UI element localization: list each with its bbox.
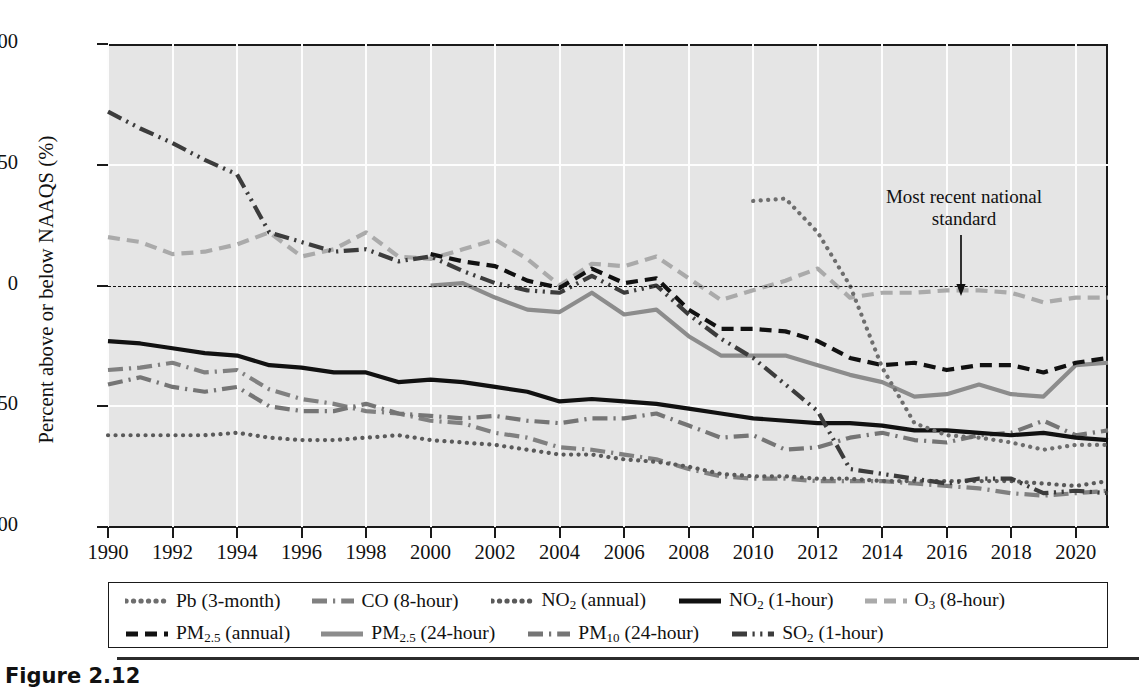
x-tick-label: 2008 [654, 541, 724, 564]
x-tick-label: 2002 [460, 541, 530, 564]
y-axis-title: Percent above or below NAAQS (%) [35, 40, 58, 540]
legend-label: O3 (8-hour) [915, 589, 1005, 613]
legend-item[interactable]: NO2 (annual) [491, 589, 647, 613]
legend-label: PM2.5 (24-hour) [371, 622, 495, 646]
legend-item[interactable]: Pb (3-month) [125, 590, 281, 612]
legend-row-1: Pb (3-month)CO (8-hour)NO2 (annual)NO2 (… [109, 584, 1109, 617]
annotation-arrow-icon [953, 235, 969, 297]
chart-figure: Percent above or below NAAQS (%) 100500−… [0, 0, 1139, 652]
x-axis-tick [301, 527, 303, 538]
legend-swatch-icon [527, 627, 571, 641]
y-tick-label: 0 [8, 272, 18, 295]
x-axis-tick [559, 527, 561, 538]
x-tick-label: 2004 [525, 541, 595, 564]
y-tick-label: −100 [0, 513, 18, 536]
x-axis-tick [688, 527, 690, 538]
caption-divider [117, 657, 1139, 660]
y-tick-label: −50 [0, 392, 18, 415]
legend-item[interactable]: PM2.5 (24-hour) [320, 622, 495, 646]
legend-label: NO2 (1-hour) [729, 589, 834, 613]
x-axis-tick [236, 527, 238, 538]
x-tick-label: 2000 [396, 541, 466, 564]
legend-swatch-icon [678, 594, 722, 608]
x-axis-tick [107, 527, 109, 538]
annotation-line-1: Most recent national [849, 186, 1079, 208]
legend-item[interactable]: PM2.5 (annual) [125, 622, 290, 646]
x-axis-tick [365, 527, 367, 538]
x-axis-tick [946, 527, 948, 538]
x-axis-tick [623, 527, 625, 538]
legend-swatch-icon [311, 594, 355, 608]
y-axis-tick [97, 285, 108, 287]
y-axis-tick [97, 164, 108, 166]
series-line [108, 377, 1108, 449]
x-tick-label: 2018 [976, 541, 1046, 564]
series-line [431, 283, 1108, 397]
x-tick-label: 1996 [267, 541, 337, 564]
x-tick-label: 2010 [718, 541, 788, 564]
x-tick-label: 2016 [912, 541, 982, 564]
y-axis-tick [97, 43, 108, 45]
legend-label: PM10 (24-hour) [578, 622, 699, 646]
legend-label: SO2 (1-hour) [782, 622, 883, 646]
y-axis-tick [97, 405, 108, 407]
x-tick-label: 2020 [1041, 541, 1111, 564]
x-axis-tick [752, 527, 754, 538]
legend-item[interactable]: PM10 (24-hour) [527, 622, 699, 646]
x-tick-label: 1990 [73, 541, 143, 564]
legend-item[interactable]: SO2 (1-hour) [731, 622, 883, 646]
chart-legend: Pb (3-month)CO (8-hour)NO2 (annual)NO2 (… [108, 582, 1108, 648]
y-tick-label: 100 [0, 30, 18, 53]
legend-label: CO (8-hour) [362, 590, 459, 612]
legend-label: Pb (3-month) [176, 590, 281, 612]
legend-item[interactable]: NO2 (1-hour) [678, 589, 834, 613]
legend-swatch-icon [491, 594, 535, 608]
legend-swatch-icon [125, 594, 169, 608]
legend-swatch-icon [864, 594, 908, 608]
x-axis-tick [430, 527, 432, 538]
x-axis-tick [494, 527, 496, 538]
legend-swatch-icon [125, 627, 169, 641]
x-axis-tick [1010, 527, 1012, 538]
x-tick-label: 2012 [783, 541, 853, 564]
x-tick-label: 2014 [847, 541, 917, 564]
legend-row-2: PM2.5 (annual)PM2.5 (24-hour)PM10 (24-ho… [109, 617, 1109, 650]
series-line [753, 199, 1108, 450]
legend-item[interactable]: CO (8-hour) [311, 590, 459, 612]
x-tick-label: 1998 [331, 541, 401, 564]
series-line [108, 433, 1108, 486]
figure-caption: Figure 2.12 [5, 664, 140, 688]
legend-swatch-icon [731, 627, 775, 641]
x-tick-label: 2006 [589, 541, 659, 564]
legend-item[interactable]: O3 (8-hour) [864, 589, 1005, 613]
figure-root: Percent above or below NAAQS (%) 100500−… [0, 0, 1139, 698]
x-axis-tick [817, 527, 819, 538]
annotation-line-2: standard [849, 208, 1079, 230]
y-tick-label: 50 [0, 151, 18, 174]
x-axis-tick [1075, 527, 1077, 538]
annotation-most-recent-standard: Most recent national standard [849, 186, 1079, 231]
legend-label: NO2 (annual) [542, 589, 647, 613]
x-tick-label: 1992 [138, 541, 208, 564]
legend-swatch-icon [320, 627, 364, 641]
x-tick-label: 1994 [202, 541, 272, 564]
x-axis-tick [172, 527, 174, 538]
x-axis-tick [881, 527, 883, 538]
legend-label: PM2.5 (annual) [176, 622, 290, 646]
